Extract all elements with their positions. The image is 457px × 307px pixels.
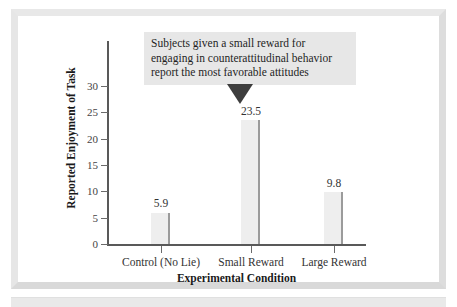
y-axis-line xyxy=(107,41,109,246)
y-tick-5 xyxy=(101,218,108,219)
bar-large-reward xyxy=(324,192,343,244)
bar-chart-plot-area: 0 5 10 15 20 25 30 xyxy=(18,16,439,282)
y-tick-25 xyxy=(101,112,108,113)
x-tick-small-reward xyxy=(251,246,252,253)
bar-value-large-reward: 9.8 xyxy=(309,177,359,189)
y-tick-15 xyxy=(101,165,108,166)
bar-small-reward xyxy=(241,120,260,244)
y-axis-title: Reported Enjoyment of Task xyxy=(65,48,77,228)
y-tick-20 xyxy=(101,139,108,140)
bar-value-control-no-lie: 5.9 xyxy=(136,197,186,209)
y-tick-label-0: 0 xyxy=(68,238,98,250)
figure-frame: 0 5 10 15 20 25 30 xyxy=(11,9,446,289)
x-tick-label-large-reward: Large Reward xyxy=(284,256,384,268)
x-axis-title: Experimental Condition xyxy=(107,272,366,284)
down-triangle-icon xyxy=(227,84,253,104)
bar-value-small-reward: 23.5 xyxy=(226,105,276,117)
y-tick-label-0-wrap: 0 xyxy=(66,238,98,250)
x-axis-line xyxy=(107,244,366,246)
y-tick-0 xyxy=(101,244,108,245)
x-tick-control-no-lie xyxy=(161,246,162,253)
annotation-callout: Subjects given a small reward for engagi… xyxy=(144,32,356,85)
bar-control-no-lie xyxy=(151,213,170,244)
lower-figure-band xyxy=(11,297,446,307)
x-tick-large-reward xyxy=(334,246,335,253)
y-tick-30 xyxy=(101,86,108,87)
y-tick-10 xyxy=(101,191,108,192)
x-tick-label-control-no-lie: Control (No Lie) xyxy=(111,256,211,268)
